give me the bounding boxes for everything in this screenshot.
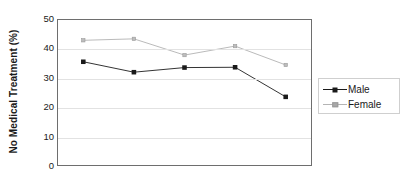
data-point (132, 37, 135, 40)
y-tick-label: 10 (30, 132, 54, 142)
y-tick-label: 20 (30, 102, 54, 112)
y-axis-tick-labels: 01020304050 (26, 0, 54, 183)
y-tick-label: 0 (30, 161, 54, 171)
chart-screenshot: No Medical Treatment (%) 01020304050 Mal… (0, 0, 404, 183)
gridline (58, 79, 311, 80)
legend-item-male: Male (319, 82, 399, 97)
y-tick-label: 50 (30, 14, 54, 24)
series-female (82, 37, 288, 66)
legend-label-female: Female (348, 100, 381, 110)
y-axis-title: No Medical Treatment (%) (0, 0, 26, 183)
y-tick-label: 30 (30, 73, 54, 83)
legend-label-male: Male (348, 85, 370, 95)
data-point (284, 63, 287, 66)
gridline (58, 108, 311, 109)
data-point (283, 95, 288, 100)
legend-item-female: Female (319, 97, 399, 112)
plot-area (57, 19, 312, 166)
gridline (58, 138, 311, 139)
plot-svg (58, 20, 311, 165)
chart-legend: Male Female (318, 78, 400, 114)
y-axis-title-text: No Medical Treatment (%) (8, 29, 19, 153)
y-tick-label: 40 (30, 44, 54, 54)
data-point (81, 59, 86, 64)
gridline (58, 49, 311, 50)
data-point (132, 70, 137, 75)
data-point (233, 65, 238, 70)
data-point (183, 53, 186, 56)
series-line (83, 39, 285, 65)
data-point (233, 44, 236, 47)
legend-swatch-female (322, 99, 348, 111)
data-point (182, 65, 187, 70)
data-point (82, 39, 85, 42)
legend-swatch-male (322, 84, 348, 96)
